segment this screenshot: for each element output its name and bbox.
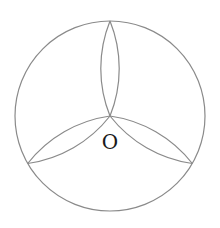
- lens-right-arc-upper: [110, 116, 192, 164]
- lens-top-arc-right: [110, 21, 119, 116]
- center-label: O: [102, 130, 118, 154]
- lens-top: [101, 21, 119, 116]
- lens-right-arc-lower: [110, 116, 192, 164]
- lens-right: [110, 116, 192, 164]
- geometry-figure: O: [0, 0, 220, 228]
- lens-left-arc-upper: [28, 116, 110, 164]
- lens-left: [28, 116, 110, 164]
- lens-top-arc-left: [101, 21, 110, 116]
- lens-left-arc-lower: [28, 116, 110, 164]
